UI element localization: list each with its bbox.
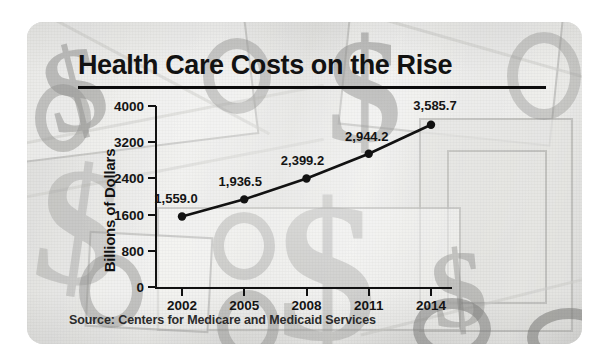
x-axis-tick-label: 2002 [167, 298, 197, 313]
plot-area: 08001600240032004000 2002200520082011201… [155, 106, 450, 288]
y-axis-tick-label: 800 [121, 243, 144, 258]
screenshot-canvas: $ $ $ $ $ Health Care Costs on the Rise … [0, 0, 609, 359]
chart-content: Health Care Costs on the Rise Billions o… [27, 22, 582, 344]
y-axis-tick-label: 1600 [114, 207, 144, 222]
data-point-marker [427, 121, 435, 129]
data-point-marker [240, 195, 248, 203]
x-axis-tick-label: 2008 [291, 298, 321, 313]
y-axis-tick-label: 4000 [114, 99, 144, 114]
data-point-marker [365, 150, 373, 158]
x-axis-tick-label: 2005 [229, 298, 259, 313]
x-axis-tick [181, 289, 183, 296]
data-point-marker [178, 212, 186, 220]
y-axis-tick-label: 0 [136, 280, 144, 295]
x-axis-tick-label: 2011 [354, 298, 383, 313]
y-axis-tick-label: 3200 [114, 135, 144, 150]
data-point-label: 1,559.0 [154, 191, 197, 206]
x-axis-tick [430, 289, 432, 296]
data-point-label: 2,944.2 [345, 129, 388, 144]
line-series [155, 106, 450, 289]
data-point-marker [302, 174, 310, 182]
data-point-label: 3,585.7 [413, 98, 456, 113]
title-underline [78, 86, 546, 89]
x-axis-tick [306, 289, 308, 296]
data-point-label: 2,399.2 [281, 153, 324, 168]
series-polyline [182, 125, 431, 217]
y-axis-tick-label: 2400 [114, 171, 144, 186]
data-point-label: 1,936.5 [219, 174, 262, 189]
chart-card: $ $ $ $ $ Health Care Costs on the Rise … [27, 22, 582, 344]
x-axis-tick-label: 2014 [416, 298, 446, 313]
series-markers [178, 121, 435, 221]
x-axis-tick [368, 289, 370, 296]
x-axis-tick [243, 289, 245, 296]
chart-title: Health Care Costs on the Rise [78, 50, 452, 81]
source-note: Source: Centers for Medicare and Medicai… [69, 313, 376, 327]
